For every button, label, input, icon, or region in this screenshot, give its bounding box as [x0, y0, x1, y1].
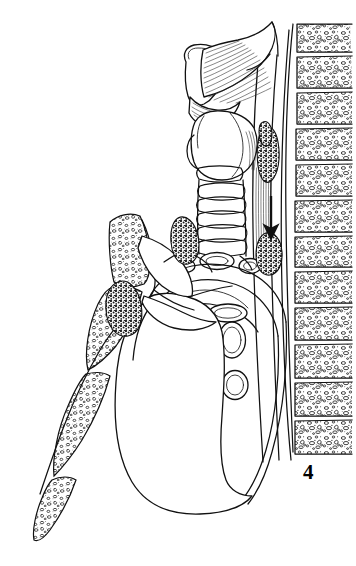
figure-number-label: 4 — [303, 462, 314, 483]
vertebra-body — [296, 56, 353, 88]
vertebra-body — [295, 164, 353, 196]
vertebra-body — [294, 344, 353, 378]
vertebra-body — [294, 382, 353, 416]
lymph-node-paratracheal — [256, 233, 282, 275]
pulmonary-vessel-cross-section — [222, 371, 248, 400]
vertebra-body — [294, 420, 353, 454]
vertebra-body — [297, 24, 353, 52]
bronchus-cross-section — [200, 253, 234, 270]
anatomical-figure: 4 — [0, 0, 356, 566]
vertebra-body — [294, 271, 353, 303]
vertebra-body — [294, 307, 353, 340]
vertebra-body — [294, 236, 353, 267]
vertebra-body — [294, 200, 353, 232]
lymph-node-superior — [259, 121, 272, 146]
vertebra-body — [295, 128, 353, 160]
vertebra-body — [296, 92, 353, 124]
